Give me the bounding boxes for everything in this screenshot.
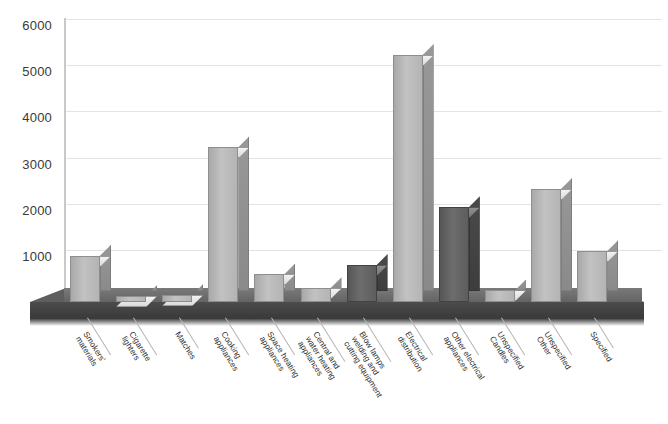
x-axis-category-labels: Smokers'materialsCigarettelightersMatche…	[0, 0, 668, 424]
x-axis-label-5: Central andwater heatingappliances	[296, 330, 345, 386]
bar-chart: 0100020003000400050006000 Smokers'materi…	[0, 0, 668, 424]
x-axis-label-6: Blow lampswelding andcutting equipment	[342, 330, 400, 399]
x-axis-label-2: Matches	[173, 330, 197, 361]
x-axis-label-line: Specified	[588, 330, 614, 363]
x-axis-label-1: Cigarettelighters	[119, 330, 152, 368]
x-axis-label-7: Electricaldistribution	[396, 330, 433, 373]
x-axis-label-10: UnspecifiedOther	[534, 330, 572, 376]
x-axis-label-3: Cookingappliances	[211, 330, 247, 373]
x-axis-label-11: Specified	[588, 330, 614, 363]
x-axis-label-4: Space heatingappliances	[257, 330, 300, 384]
x-axis-label-9: UnspecifiedCandles	[488, 330, 526, 376]
x-axis-label-8: Other electricalappliances	[442, 330, 487, 386]
x-axis-label-line: Matches	[173, 330, 197, 361]
x-axis-label-0: Smokers'materials	[73, 330, 107, 368]
